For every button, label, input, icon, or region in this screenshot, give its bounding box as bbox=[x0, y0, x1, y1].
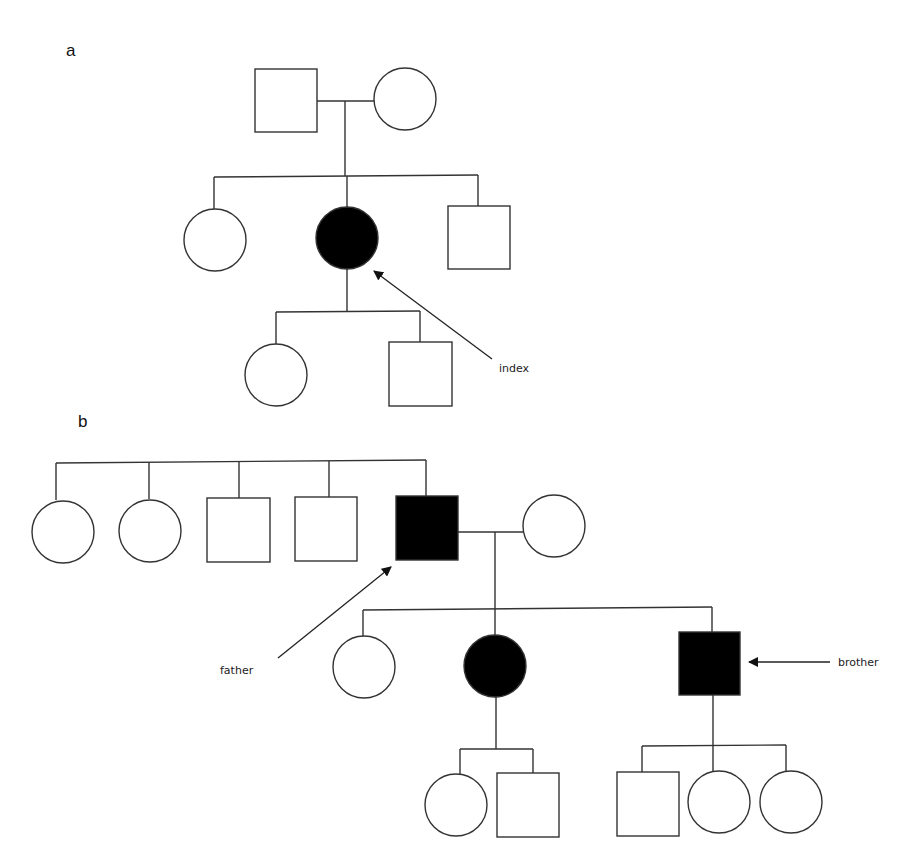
b-gen2-female-affected bbox=[464, 635, 526, 697]
b-gen1-male-affected-father bbox=[396, 496, 458, 560]
a-sibship-line-gen3 bbox=[276, 311, 420, 312]
b-gen3-female-2 bbox=[688, 771, 750, 833]
a-gen2-female-affected-index bbox=[316, 207, 378, 269]
b-gen1-male-2 bbox=[295, 497, 357, 561]
father-label: father bbox=[220, 664, 254, 677]
b-gen3-female-1 bbox=[425, 774, 487, 836]
b-gen2-female-unaffected bbox=[333, 636, 395, 698]
a-gen3-male bbox=[389, 342, 452, 406]
a-gen2-male bbox=[448, 206, 510, 269]
b-gen1-spouse-female bbox=[523, 495, 585, 557]
a-gen1-male bbox=[255, 69, 317, 132]
b-sibship-line-gen2 bbox=[363, 607, 712, 610]
b-gen1-female-1 bbox=[32, 501, 94, 563]
a-gen3-female bbox=[245, 344, 307, 406]
b-gen2-male-affected-brother bbox=[679, 632, 740, 695]
panel-b-label: b bbox=[78, 412, 87, 431]
a-gen1-female bbox=[374, 68, 436, 130]
b-gen1-male-1 bbox=[207, 498, 270, 562]
b-gen3-female-3 bbox=[760, 771, 822, 833]
a-sibship-line-gen2 bbox=[214, 175, 478, 177]
pedigree-figure: a index b bbox=[0, 0, 916, 867]
b-gen3-male-1 bbox=[497, 773, 559, 837]
a-gen2-female-unaffected bbox=[184, 209, 246, 271]
index-label: index bbox=[499, 362, 530, 375]
b-sibship-line-gen1 bbox=[56, 460, 426, 463]
b-gen1-female-2 bbox=[119, 500, 181, 562]
panel-a-label: a bbox=[66, 41, 76, 60]
brother-label: brother bbox=[838, 656, 879, 669]
b-gen3-male-2 bbox=[617, 772, 679, 836]
panel-b: b father brother bbox=[32, 412, 879, 837]
panel-a: a index bbox=[66, 41, 530, 406]
b-sibship-line-gen3-right bbox=[642, 745, 786, 746]
